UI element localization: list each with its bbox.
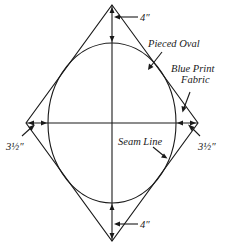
bottom-dimension-label: 4″ xyxy=(140,219,150,230)
arrowhead-left-icon xyxy=(28,121,34,126)
arrowhead-left-icon xyxy=(177,121,183,126)
oval-diamond-diagram: 4″ Pieced Oval Blue Print Fabric 3½″ Sea… xyxy=(0,0,226,247)
left-dimension-label: 3½″ xyxy=(5,141,24,152)
top-dimension-label: 4″ xyxy=(140,12,150,23)
top-dimension-leader xyxy=(114,15,138,20)
arrowhead-right-icon xyxy=(41,121,47,126)
seam-line-leader xyxy=(153,147,168,159)
fabric-label: Fabric xyxy=(180,74,210,85)
arrowhead-up-icon xyxy=(110,204,115,210)
blue-print-label: Blue Print xyxy=(171,63,216,74)
arrowhead-right-icon xyxy=(190,121,196,126)
pieced-oval-leader xyxy=(148,52,162,70)
pieced-oval-label: Pieced Oval xyxy=(147,38,200,49)
right-dimension-label: 3½″ xyxy=(197,141,216,152)
arrowhead-down-icon xyxy=(110,36,115,42)
seam-line-label: Seam Line xyxy=(118,136,162,147)
